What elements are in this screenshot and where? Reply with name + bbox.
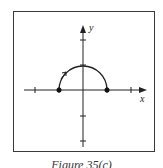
figure: y x Figure 35(c)	[0, 0, 163, 168]
figure-caption: Figure 35(c)	[0, 158, 163, 168]
endpoint-left	[57, 88, 62, 93]
endpoint-right	[105, 88, 110, 93]
y-axis-arrow-icon	[80, 25, 86, 33]
graph: y x	[0, 0, 163, 168]
x-axis-label: x	[139, 93, 145, 104]
y-axis-label: y	[88, 22, 94, 33]
direction-arrow-icon	[61, 72, 66, 79]
